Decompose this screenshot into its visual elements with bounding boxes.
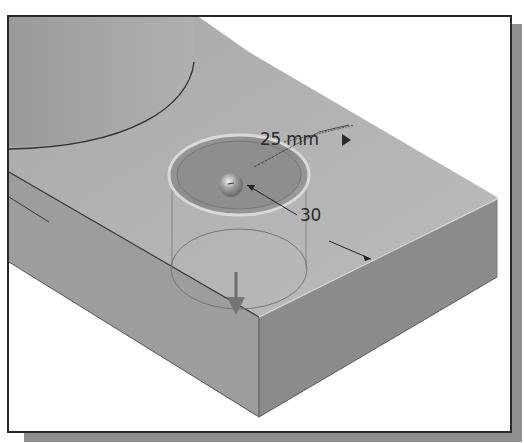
model-canvas (9, 17, 512, 433)
dimension-flyout-arrow-icon[interactable] (342, 134, 351, 146)
viewport-frame: 25 mm 30 (7, 15, 512, 433)
diameter-dimension-label[interactable]: 25 mm (260, 129, 319, 149)
distance-dimension-label[interactable]: 30 (300, 205, 321, 225)
center-point-handle (219, 173, 243, 197)
graphics-viewport[interactable]: 25 mm 30 (9, 17, 510, 431)
